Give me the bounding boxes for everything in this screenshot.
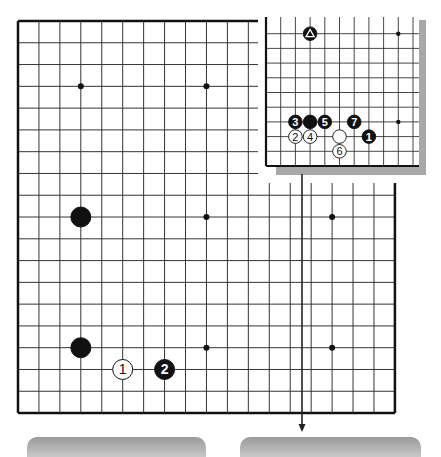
black-stone [71,338,91,358]
bottom-panel-right [240,437,421,457]
arrow-head [299,424,306,432]
stone-label: 2 [161,361,169,377]
shadow-right [419,20,426,175]
star-point [203,214,209,220]
arrow-down-icon [299,174,306,432]
star-point [329,345,335,351]
star-point [203,345,209,351]
stone-label: 7 [351,116,357,128]
black-stone [303,115,317,129]
stone-label: 1 [119,361,127,377]
shadow-bottom [276,166,426,175]
star-point [396,120,400,124]
stone-label: 6 [336,145,342,157]
inset-board: 7352461 [266,16,419,166]
star-point [329,214,335,220]
stone-label: 3 [292,116,298,128]
stone-label: 2 [292,131,298,143]
stone-label: 1 [366,131,372,143]
bottom-panel-left [27,437,206,457]
inset-background [266,16,419,166]
stone-label: 5 [322,116,328,128]
white-stone [333,130,347,144]
stone-label: 4 [307,131,313,143]
star-point [396,32,400,36]
star-point [203,83,209,89]
star-point [78,83,84,89]
black-stone [71,207,91,227]
